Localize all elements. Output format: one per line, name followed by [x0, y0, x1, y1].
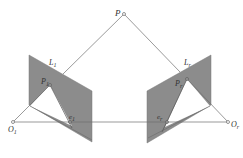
point-p1 — [49, 84, 52, 87]
point-pr — [186, 78, 189, 81]
epipolar-diagram: P L1 Lr P1 Pr e1 er O1 Or — [0, 0, 243, 158]
label-p: P — [114, 8, 121, 18]
label-or: Or — [231, 120, 240, 130]
point-p — [123, 13, 126, 16]
label-l1: L1 — [48, 58, 56, 68]
label-lr: Lr — [183, 58, 191, 68]
point-o1 — [12, 121, 15, 124]
label-o1: O1 — [8, 125, 17, 135]
ray-p-right — [124, 14, 180, 72]
point-er — [166, 121, 169, 124]
ray-p-left — [63, 14, 124, 74]
point-or — [227, 121, 230, 124]
